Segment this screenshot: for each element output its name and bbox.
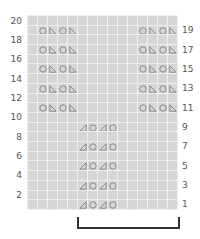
grid-cell: [118, 16, 127, 25]
grid-cell: [158, 16, 167, 25]
grid-cell: [158, 132, 167, 141]
grid-cell: [168, 191, 177, 200]
circle-icon: [159, 27, 167, 35]
grid-cell: [148, 200, 157, 209]
grid-cell: [138, 35, 147, 44]
grid-cell: [48, 103, 57, 112]
grid-cell: [128, 123, 137, 132]
triangle-right-icon: [79, 124, 87, 132]
grid-cell: [28, 74, 37, 83]
grid-cell: [88, 200, 97, 209]
grid-cell: [68, 94, 77, 103]
grid-cell: [68, 200, 77, 209]
grid-cell: [168, 16, 177, 25]
grid-cell: [138, 142, 147, 151]
grid-cell: [78, 55, 87, 64]
grid-cell: [58, 84, 67, 93]
triangle-left-icon: [49, 27, 57, 35]
grid-cell: [98, 113, 107, 122]
circle-icon: [139, 46, 147, 54]
triangle-left-icon: [69, 85, 77, 93]
grid-cell: [88, 142, 97, 151]
circle-icon: [109, 162, 117, 170]
circle-icon: [59, 65, 67, 73]
grid-cell: [98, 45, 107, 54]
grid-cell: [68, 191, 77, 200]
row-label-right: 11: [182, 103, 198, 113]
grid-cell: [58, 35, 67, 44]
grid-cell: [48, 55, 57, 64]
row-label-right: 1: [182, 199, 198, 209]
triangle-left-icon: [69, 46, 77, 54]
grid-cell: [98, 181, 107, 190]
grid-cell: [78, 123, 87, 132]
grid-cell: [168, 94, 177, 103]
grid-cell: [38, 64, 47, 73]
grid-cell: [58, 113, 67, 122]
grid-cell: [88, 45, 97, 54]
circle-icon: [89, 124, 97, 132]
grid-cell: [78, 142, 87, 151]
grid-cell: [168, 123, 177, 132]
grid-cell: [98, 64, 107, 73]
grid-cell: [48, 132, 57, 141]
grid-cell: [168, 113, 177, 122]
circle-icon: [139, 27, 147, 35]
grid-cell: [38, 132, 47, 141]
grid-cell: [48, 142, 57, 151]
grid-cell: [148, 181, 157, 190]
grid-cell: [78, 64, 87, 73]
grid-cell: [158, 142, 167, 151]
grid-cell: [138, 84, 147, 93]
grid-cell: [118, 45, 127, 54]
grid-cell: [108, 200, 117, 209]
grid-cell: [138, 152, 147, 161]
grid-cell: [118, 191, 127, 200]
grid-cell: [78, 16, 87, 25]
grid-cell: [108, 94, 117, 103]
grid-cell: [158, 64, 167, 73]
grid-cell: [138, 200, 147, 209]
grid-cell: [58, 152, 67, 161]
circle-icon: [39, 85, 47, 93]
grid-cell: [138, 16, 147, 25]
grid-cell: [98, 123, 107, 132]
grid-cell: [88, 74, 97, 83]
grid-cell: [118, 161, 127, 170]
grid-cell: [38, 26, 47, 35]
grid-cell: [68, 55, 77, 64]
triangle-left-icon: [169, 104, 177, 112]
triangle-left-icon: [149, 104, 157, 112]
circle-icon: [59, 85, 67, 93]
grid-cell: [128, 84, 137, 93]
grid-cell: [48, 26, 57, 35]
grid-cell: [118, 142, 127, 151]
grid-cell: [128, 191, 137, 200]
grid-cell: [128, 74, 137, 83]
grid-cell: [88, 152, 97, 161]
grid-cell: [38, 74, 47, 83]
grid-cell: [58, 45, 67, 54]
grid-cell: [98, 94, 107, 103]
grid-cell: [168, 161, 177, 170]
grid-cell: [158, 94, 167, 103]
grid-cell: [98, 142, 107, 151]
grid-cell: [138, 132, 147, 141]
circle-icon: [39, 46, 47, 54]
grid-cell: [28, 200, 37, 209]
triangle-left-icon: [169, 46, 177, 54]
grid-cell: [108, 181, 117, 190]
grid-cell: [118, 200, 127, 209]
grid-cell: [38, 35, 47, 44]
grid-cell: [98, 35, 107, 44]
grid-cell: [148, 84, 157, 93]
row-label-right: 13: [182, 83, 198, 93]
grid-cell: [118, 123, 127, 132]
grid-cell: [148, 55, 157, 64]
grid-cell: [78, 181, 87, 190]
grid-cell: [168, 45, 177, 54]
grid-cell: [78, 191, 87, 200]
row-label-left: 18: [4, 35, 22, 45]
grid-cell: [108, 64, 117, 73]
grid-cell: [98, 55, 107, 64]
